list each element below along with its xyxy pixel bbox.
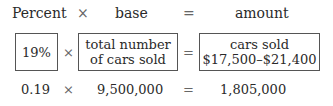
percent-box: 19%	[15, 33, 58, 71]
calc-percent-value: 0.19	[21, 83, 50, 96]
amount-line-2: $17,500–$21,400	[202, 52, 316, 67]
calc-base-value: 9,500,000	[97, 83, 163, 96]
calc-equals-operator: =	[183, 83, 194, 96]
percent-value: 19%	[22, 45, 51, 60]
box-equals-operator: =	[183, 46, 194, 59]
amount-box: cars sold $17,500–$21,400	[199, 33, 320, 71]
base-line-1: total number	[85, 37, 171, 52]
header-times-operator: ×	[77, 6, 89, 20]
header-percent-label: Percent	[12, 6, 67, 20]
base-line-2: of cars sold	[90, 52, 166, 67]
base-box: total number of cars sold	[78, 33, 178, 71]
header-equals-operator: =	[183, 6, 195, 20]
calc-times-operator: ×	[63, 83, 74, 96]
box-times-operator: ×	[63, 46, 74, 59]
calc-amount-value: 1,805,000	[220, 83, 286, 96]
header-base-label: base	[115, 6, 148, 20]
amount-line-1: cars sold	[230, 37, 289, 52]
header-amount-label: amount	[235, 6, 289, 20]
